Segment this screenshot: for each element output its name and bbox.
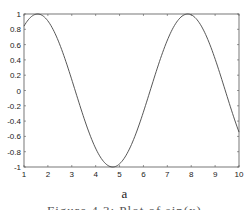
x-tick-label: 4: [93, 170, 98, 179]
y-tick-label: 0.6: [10, 41, 22, 50]
x-tick-label: 9: [213, 170, 218, 179]
x-tick-label: 10: [235, 170, 244, 179]
y-tick-label: -0.4: [7, 117, 21, 126]
y-tick-label: -1: [14, 163, 22, 172]
x-tick-label: 3: [70, 170, 75, 179]
y-tick-label: -0.6: [7, 132, 21, 141]
y-tick-label: 0.2: [10, 71, 22, 80]
y-axis-tick-labels: -1-0.8-0.6-0.4-0.200.20.40.60.81: [7, 10, 21, 172]
sine-line-chart: 12345678910 -1-0.8-0.6-0.4-0.200.20.40.6…: [0, 0, 249, 210]
figure-caption: Figure 4.3: Plot of sin(x): [0, 203, 249, 210]
y-tick-label: 0: [17, 87, 22, 96]
x-tick-label: 2: [46, 170, 51, 179]
x-tick-label: 5: [117, 170, 122, 179]
x-tick-label: 1: [22, 170, 27, 179]
x-tick-label: 6: [141, 170, 146, 179]
y-tick-label: 0.4: [10, 56, 22, 65]
subfigure-label: a: [0, 186, 249, 202]
x-axis-tick-labels: 12345678910: [22, 170, 244, 179]
y-tick-label: 1: [17, 10, 22, 19]
x-tick-label: 7: [165, 170, 170, 179]
y-tick-label: -0.8: [7, 148, 21, 157]
y-tick-label: 0.8: [10, 25, 22, 34]
y-tick-label: -0.2: [7, 102, 21, 111]
x-tick-label: 8: [189, 170, 194, 179]
